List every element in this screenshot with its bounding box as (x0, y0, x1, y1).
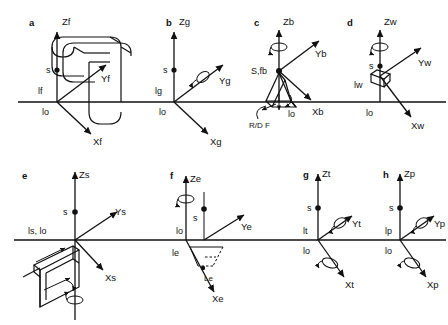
panel-e-letter: e (22, 170, 27, 181)
panel-e-shape (23, 246, 79, 307)
panel-g: g Zt Yt Xt s lt lo (303, 168, 361, 290)
panel-g-y-axis (318, 216, 352, 240)
panel-d-s-label: s (369, 61, 374, 71)
panel-e-x-label: Xs (105, 272, 116, 283)
panel-g-offset-label: lt (303, 226, 308, 236)
panel-b-letter: b (166, 17, 172, 28)
panel-c-x-label: Xb (312, 106, 324, 117)
panel-d-letter: d (347, 17, 353, 28)
panel-h-origin-label: lo (385, 246, 392, 256)
panel-g-y-label: Yt (352, 218, 361, 229)
panel-e-origin-label: ls, lo (28, 226, 47, 236)
panel-f: f Ze s Ye Xe Le lo le (170, 170, 252, 304)
panel-f-origin-label: lo (176, 226, 183, 236)
panel-a: a Zf Yf Xf s lf lo (29, 16, 131, 147)
panel-d-x-axis (380, 76, 411, 117)
panel-c-origin-label: lo (288, 109, 295, 119)
panel-a-s-label: s (46, 65, 51, 75)
panel-f-offset-label: le (172, 248, 179, 258)
panel-a-x-axis (57, 102, 91, 134)
panel-g-x-label: Xt (345, 279, 354, 290)
panel-b-rotation-arrow (192, 69, 211, 88)
panel-b-y-axis (174, 65, 223, 102)
panel-a-x-label: Xf (93, 136, 102, 147)
panel-h: h Zp Yp Xp s lp lo (383, 168, 445, 290)
panel-e: e Zs Ys Xs s ls, lo (22, 169, 126, 320)
coordinate-frames-figure: a Zf Yf Xf s lf lo (0, 0, 448, 325)
panel-c-y-label: Yb (315, 48, 327, 59)
panel-a-z-label: Zf (62, 16, 71, 27)
panel-b-x-axis (174, 102, 208, 134)
panel-g-origin-label: lo (303, 246, 310, 256)
panel-c-z-label: Zb (283, 16, 294, 27)
panel-b-z-label: Zg (179, 16, 190, 27)
panel-h-z-label: Zp (404, 168, 415, 179)
panel-f-z-label: Ze (190, 173, 201, 184)
panel-h-s-point (397, 205, 403, 211)
panel-f-y-label: Ye (241, 221, 252, 232)
panel-f-letter: f (170, 170, 174, 181)
panel-b-offset-label: lg (155, 86, 162, 96)
panel-g-rotation-arrow-x (318, 256, 339, 270)
panel-f-extra-label: Le (204, 274, 213, 283)
panel-f-x-label: Xe (212, 293, 224, 304)
panel-b-y-label: Yg (219, 75, 231, 86)
panel-b-x-label: Xg (210, 136, 222, 147)
panel-e-y-axis (75, 212, 117, 240)
panel-c-extra-label: R/D F (249, 121, 270, 130)
panel-f-s-point (201, 206, 207, 212)
panel-d-y-label: Yw (418, 57, 431, 68)
panel-h-s-label: s (389, 203, 394, 213)
panel-a-s-point (54, 67, 59, 72)
panel-a-y-label: Yf (101, 73, 110, 84)
panel-h-letter: h (383, 169, 389, 180)
panel-e-y-label: Ys (115, 206, 126, 217)
panel-b-s-label: s (163, 65, 168, 75)
panel-c-letter: c (254, 17, 259, 28)
panel-d-y-axis (380, 48, 421, 76)
panel-h-x-label: Xp (427, 279, 439, 290)
panel-c-s-point (276, 68, 282, 74)
panel-g-letter: g (303, 169, 309, 180)
panel-c-s-label: S,fb (251, 66, 267, 76)
panel-f-s-label: s (193, 213, 198, 223)
panel-a-y-axis (57, 65, 106, 102)
panel-e-s-point (72, 209, 78, 215)
panel-d: d Zw Yw Xw s lw lo (347, 16, 431, 131)
panel-d-x-label: Xw (411, 120, 424, 131)
panel-b-origin-label: lo (159, 107, 166, 117)
panel-b: b Zg Yg Xg s lg lo (155, 16, 231, 147)
panel-a-offset-label: lf (38, 86, 43, 96)
panel-f-le-parallelogram (190, 247, 223, 270)
panel-e-z-label: Zs (79, 169, 90, 180)
panel-d-offset-label: lw (354, 80, 363, 90)
panel-d-s-point (377, 63, 382, 68)
panel-c-y-axis (279, 41, 319, 71)
panel-d-origin-label: lo (366, 108, 373, 118)
panel-h-y-label: Yp (434, 218, 445, 229)
panel-d-z-label: Zw (384, 16, 397, 27)
panel-f-y-axis (204, 215, 244, 240)
panel-h-offset-label: lp (385, 226, 392, 236)
panel-e-s-label: s (63, 207, 68, 217)
panel-g-s-label: s (307, 203, 312, 213)
panel-g-z-label: Zt (322, 168, 331, 179)
panel-a-shape (52, 37, 131, 124)
panel-b-s-point (171, 67, 176, 72)
panel-c: c Zb Yb Xb S,fb (249, 16, 327, 130)
panel-h-y-axis (400, 216, 434, 240)
panel-g-s-point (315, 205, 321, 211)
panel-h-rotation-arrow-x (400, 256, 421, 270)
panel-a-letter: a (29, 17, 35, 28)
panel-a-origin-label: lo (42, 107, 49, 117)
